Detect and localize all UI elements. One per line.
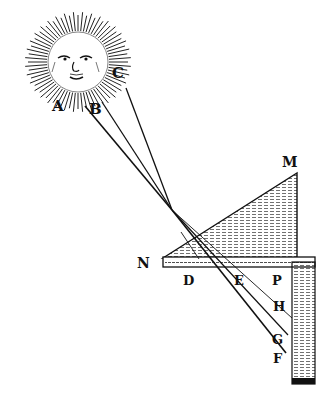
- label-h: H: [273, 299, 285, 314]
- label-m: M: [282, 154, 298, 170]
- label-a: A: [51, 97, 64, 115]
- label-c: C: [112, 64, 124, 82]
- label-f: F: [273, 351, 283, 366]
- label-g: G: [272, 332, 283, 347]
- label-n: N: [137, 255, 150, 271]
- prism-diagram: A B C M N D E P H G F: [0, 0, 333, 403]
- label-b: B: [89, 100, 102, 118]
- screen: [292, 262, 315, 384]
- label-p: P: [272, 273, 282, 288]
- sun-icon: [25, 12, 131, 112]
- label-e: E: [234, 273, 244, 288]
- prism: [163, 173, 297, 258]
- label-d: D: [183, 273, 194, 288]
